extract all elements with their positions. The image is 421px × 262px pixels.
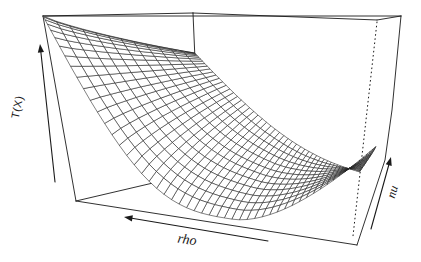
surface-plot-figure: T(X) rho nu xyxy=(0,0,421,262)
x-axis-label: rho xyxy=(176,231,197,250)
wireframe-surface-mesh xyxy=(43,16,376,220)
hidden-edge-dotted xyxy=(353,22,377,236)
surface-plot-canvas xyxy=(0,0,421,262)
